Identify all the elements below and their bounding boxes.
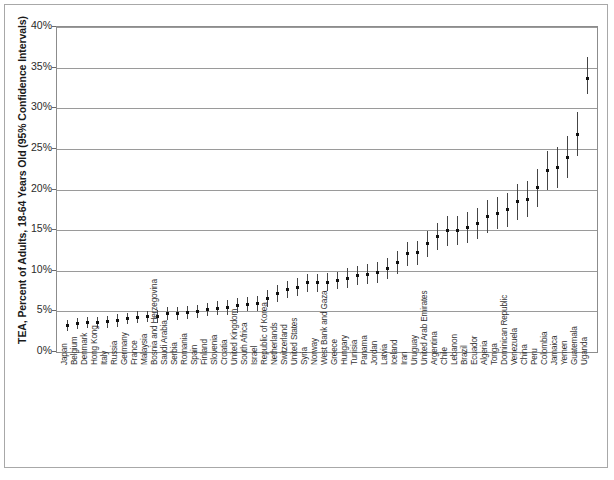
y-axis-tick-label: 30% [8,100,52,112]
point-marker [326,281,329,284]
x-axis-tick-label: Belgium [70,336,79,365]
x-axis-tick-label: West Bank and Gaza [320,290,329,365]
point-marker [576,133,579,136]
point-marker [486,215,489,218]
x-axis-tick-label: Latvia [380,344,389,365]
point-marker [126,317,129,320]
point-marker [176,312,179,315]
x-axis-tick-label: South Africa [240,323,249,365]
x-axis-tick-label: Uganda [580,337,589,365]
point-marker [296,286,299,289]
point-marker [586,77,589,80]
point-marker [86,321,89,324]
figure-container: TEA, Percent of Adults, 18-64 Years Old … [0,0,614,480]
y-axis-tick-label: 35% [8,60,52,72]
point-marker [476,222,479,225]
x-axis-tick-label: Iran [400,351,409,365]
point-marker [236,304,239,307]
x-axis-tick-label: Dominican Republic [500,295,509,365]
x-axis-tick-label: United States [290,318,299,365]
point-marker [316,281,319,284]
y-axis-tick-label: 10% [8,263,52,275]
x-axis-tick-label: Bosnia and Herzegovina [150,279,159,365]
point-marker [456,229,459,232]
point-marker [446,229,449,232]
point-marker [106,320,109,323]
x-axis-tick-label: Colombia [540,332,549,365]
x-axis-tick-label: Spain [190,345,199,365]
gridline [57,149,597,150]
x-axis-tick-label: Russia [110,341,119,365]
point-marker [226,306,229,309]
point-marker [196,310,199,313]
gridline [57,68,597,69]
x-axis-tick-label: Yemen [560,341,569,365]
x-axis-labels-group: JapanBelgiumDenmarkHong KongItalyRussiaG… [56,356,598,464]
x-axis-tick-label: Hungary [340,335,349,365]
y-axis-tick-mark [52,107,56,108]
point-marker [536,186,539,189]
x-axis-tick-label: Finland [200,339,209,365]
x-axis-tick-label: Jamaica [550,336,559,365]
x-axis-tick-label: Panama [360,335,369,365]
y-axis-tick-mark [52,310,56,311]
point-marker [76,322,79,325]
x-axis-tick-label: Serbia [170,342,179,365]
point-marker [546,169,549,172]
y-axis-tick-mark [52,148,56,149]
point-marker [266,297,269,300]
gridline [57,271,597,272]
point-marker [336,279,339,282]
x-axis-tick-label: Romania [180,333,189,365]
point-marker [566,156,569,159]
x-axis-tick-label: Germany [120,332,129,365]
x-axis-tick-label: Italy [100,351,109,365]
y-axis-tick-mark [52,270,56,271]
point-marker [426,242,429,245]
x-axis-tick-label: Argentina [430,331,439,365]
point-marker [406,252,409,255]
point-marker [206,308,209,311]
point-marker [116,319,119,322]
x-axis-tick-label: United Kingdom [230,309,239,365]
x-axis-tick-label: Saudi Arabia [160,320,169,365]
x-axis-tick-label: Venezuela [510,328,519,365]
y-axis-tick-mark [52,351,56,352]
x-axis-tick-label: Algeria [480,341,489,365]
x-axis-tick-label: Syria [300,347,309,365]
x-axis-tick-label: Ecuador [470,336,479,365]
y-axis-tick-label: 15% [8,222,52,234]
point-marker [516,200,519,203]
point-marker [216,307,219,310]
point-marker [436,235,439,238]
point-marker [366,273,369,276]
point-marker [466,226,469,229]
point-marker [276,292,279,295]
y-axis-tick-mark [52,67,56,68]
x-axis-tick-label: Malaysia [140,334,149,365]
gridline [57,190,597,191]
gridline [57,27,597,28]
x-axis-tick-label: Greece [330,339,339,365]
y-axis-tick-label: 20% [8,182,52,194]
y-axis-tick-mark [52,229,56,230]
x-axis-tick-label: Netherlands [270,323,279,366]
x-axis-tick-label: France [130,340,139,365]
confidence-interval-bar [587,57,588,94]
point-marker [496,212,499,215]
point-marker [256,302,259,305]
gridline [57,108,597,109]
y-axis-tick-label: 0% [8,344,52,356]
x-axis-tick-label: United Arab Emirates [420,291,429,365]
x-axis-tick-label: Denmark [80,333,89,365]
point-marker [166,312,169,315]
point-marker [396,261,399,264]
point-marker [96,321,99,324]
x-axis-tick-label: Iceland [390,340,399,365]
point-marker [376,271,379,274]
x-axis-tick-label: Croatia [220,340,229,365]
point-marker [506,208,509,211]
x-axis-tick-label: Switzerland [280,324,289,365]
point-marker [136,316,139,319]
gridline [57,230,597,231]
